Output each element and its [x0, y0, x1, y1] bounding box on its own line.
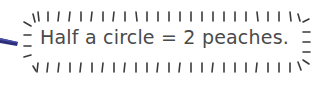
caption-text: Half a circle = 2 peaches. — [40, 26, 300, 48]
pencil-icon — [0, 36, 22, 48]
